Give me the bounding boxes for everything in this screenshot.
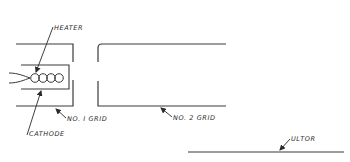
- cathode-arrow: [27, 91, 41, 135]
- heater-label: HEATER: [54, 25, 83, 32]
- grid2-arrow: [161, 108, 172, 117]
- grid1-electrode: [16, 44, 73, 106]
- grid2-electrode: [98, 44, 226, 106]
- grid1-label: NO. I GRID: [67, 116, 107, 123]
- heater-coil: [9, 73, 63, 83]
- ultor-label: ULTOR: [291, 136, 316, 143]
- ultor-arrow: [280, 139, 290, 150]
- grid2-label: NO. 2 GRID: [173, 115, 216, 122]
- cathode-label: CATHODE: [29, 131, 65, 138]
- grid1-arrow: [56, 109, 66, 118]
